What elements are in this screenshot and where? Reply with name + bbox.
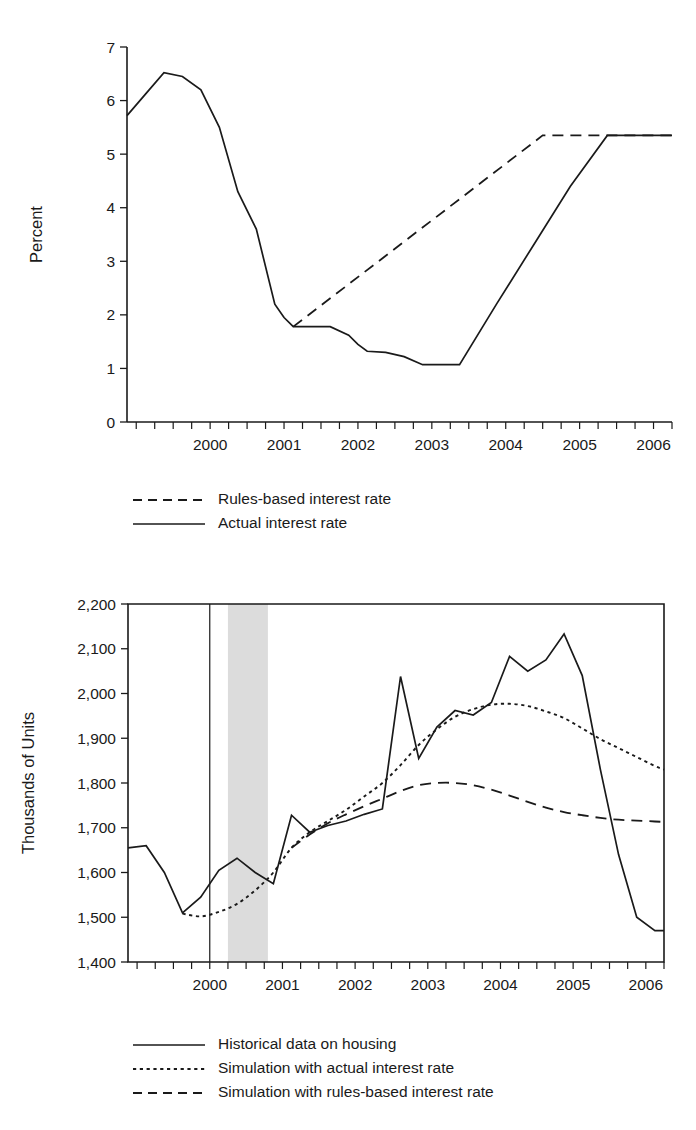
interest-rate-plot: 012345672000200120022003200420052006Perc… bbox=[27, 39, 672, 454]
y-tick-label: 1,600 bbox=[77, 864, 116, 881]
x-tick-label: 2005 bbox=[556, 976, 590, 993]
y-tick-label: 0 bbox=[106, 414, 115, 431]
y-tick-label: 1,900 bbox=[77, 730, 116, 747]
series-line bbox=[128, 634, 664, 931]
x-tick-label: 2002 bbox=[341, 436, 375, 453]
y-tick-label: 2,000 bbox=[77, 685, 116, 702]
y-tick-label: 3 bbox=[106, 253, 115, 270]
x-tick-label: 2006 bbox=[629, 976, 663, 993]
y-tick-label: 2 bbox=[106, 306, 115, 323]
housing-starts-legend: Historical data on housingSimulation wit… bbox=[133, 1035, 494, 1100]
x-tick-label: 2000 bbox=[193, 976, 228, 993]
recession-band bbox=[228, 604, 268, 962]
interest-rate-panel: 012345672000200120022003200420052006Perc… bbox=[0, 0, 696, 560]
y-tick-label: 1,500 bbox=[77, 909, 116, 926]
y-tick-label: 1 bbox=[106, 360, 115, 377]
series-line bbox=[127, 73, 672, 365]
series-line bbox=[293, 135, 672, 326]
y-tick-label: 2,200 bbox=[77, 596, 116, 613]
y-axis-title: Percent bbox=[27, 206, 45, 263]
housing-starts-plot: 1,4001,5001,6001,7001,8001,9002,0002,100… bbox=[19, 596, 664, 994]
housing-starts-chart: 1,4001,5001,6001,7001,8001,9002,0002,100… bbox=[0, 560, 696, 1130]
x-tick-label: 2003 bbox=[415, 436, 449, 453]
legend-label: Simulation with actual interest rate bbox=[218, 1059, 454, 1076]
y-tick-label: 1,400 bbox=[77, 954, 116, 971]
y-tick-label: 1,800 bbox=[77, 775, 116, 792]
interest-rate-legend: Rules-based interest rateActual interest… bbox=[133, 490, 391, 531]
figure-container: 012345672000200120022003200420052006Perc… bbox=[0, 0, 696, 1130]
y-tick-label: 7 bbox=[106, 39, 115, 56]
x-tick-label: 2002 bbox=[338, 976, 372, 993]
housing-starts-panel: 1,4001,5001,6001,7001,8001,9002,0002,100… bbox=[0, 560, 696, 1130]
y-tick-label: 1,700 bbox=[77, 819, 116, 836]
series-line bbox=[292, 783, 664, 848]
x-tick-label: 2001 bbox=[267, 436, 301, 453]
y-tick-label: 2,100 bbox=[77, 640, 116, 657]
legend-label: Rules-based interest rate bbox=[218, 490, 391, 507]
y-tick-label: 5 bbox=[106, 146, 115, 163]
legend-label: Historical data on housing bbox=[218, 1035, 396, 1052]
interest-rate-chart: 012345672000200120022003200420052006Perc… bbox=[0, 0, 696, 560]
x-tick-label: 2000 bbox=[193, 436, 228, 453]
legend-label: Actual interest rate bbox=[218, 514, 347, 531]
y-axis-title: Thousands of Units bbox=[19, 712, 37, 854]
x-tick-label: 2006 bbox=[636, 436, 670, 453]
x-tick-label: 2001 bbox=[265, 976, 299, 993]
legend-label: Simulation with rules-based interest rat… bbox=[218, 1083, 494, 1100]
x-tick-label: 2004 bbox=[488, 436, 523, 453]
x-tick-label: 2003 bbox=[411, 976, 445, 993]
y-tick-label: 6 bbox=[106, 92, 115, 109]
plot-frame bbox=[128, 604, 664, 962]
x-tick-label: 2004 bbox=[483, 976, 518, 993]
x-tick-label: 2005 bbox=[562, 436, 596, 453]
y-tick-label: 4 bbox=[106, 199, 115, 216]
